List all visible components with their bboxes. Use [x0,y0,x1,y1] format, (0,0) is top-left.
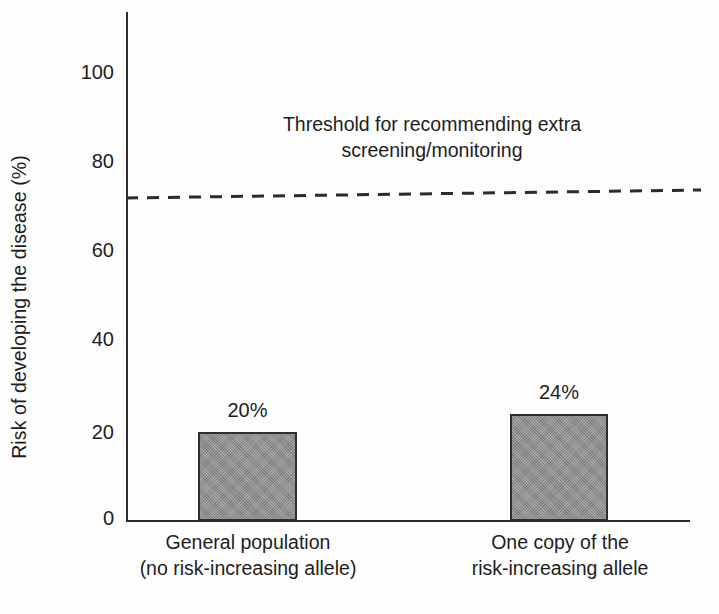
y-axis-line [126,12,128,522]
threshold-line [126,186,701,200]
x-category-label-one-copy-allele: One copy of the risk-increasing allele [440,530,680,582]
bar-general-population[interactable] [198,432,297,521]
bar-one-copy-allele[interactable] [510,414,608,521]
category-0-line1: General population [128,530,368,556]
threshold-line-svg [126,186,701,200]
category-1-line2: risk-increasing allele [440,556,680,582]
bar-label-general-population: 20% [198,400,297,420]
category-0-line2: (no risk-increasing allele) [128,556,368,582]
threshold-annotation: Threshold for recommending extra screeni… [262,112,602,163]
threshold-annotation-line1: Threshold for recommending [283,113,532,135]
bar-label-one-copy-allele: 24% [510,382,608,402]
bar-chart-figure: Risk of developing the disease (%) 100 8… [0,0,719,614]
x-category-label-general-population: General population (no risk-increasing a… [128,530,368,582]
category-1-line1: One copy of the [440,530,680,556]
